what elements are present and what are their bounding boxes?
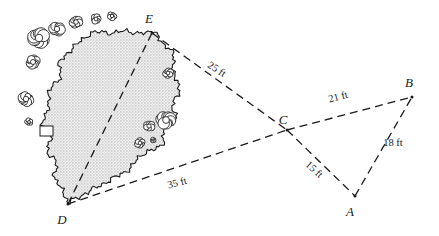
segment-CB <box>287 97 412 130</box>
shrub-lobe <box>166 71 170 75</box>
shrub-small-left <box>25 118 33 125</box>
shrub-cluster-right-large <box>156 112 176 129</box>
shrub-small-right <box>150 137 155 142</box>
shrub-lobe <box>110 14 113 17</box>
shrub-cluster-top-left <box>69 16 83 28</box>
geometry-diagram-pond-triangles: EDCBA 25 ft35 ft21 ft15 ft18 ft <box>0 0 439 236</box>
vertex-label-B: B <box>405 75 413 90</box>
shrub-cluster-upper-left-mid <box>49 22 66 36</box>
shrub-cluster-left-upper <box>26 55 40 69</box>
measurement-label-AB: 18 ft <box>383 137 403 148</box>
dock-rectangle <box>40 126 53 136</box>
shrub-cluster-top-right <box>107 12 116 21</box>
vertex-label-C: C <box>279 112 288 127</box>
shrub-cluster-right-mid <box>144 121 155 131</box>
measurement-label-EC: 25 ft <box>206 59 228 79</box>
shrub-lobe <box>30 59 35 64</box>
vertex-label-D: D <box>56 212 67 227</box>
vertex-marker-D <box>67 203 70 206</box>
shrub-lobe <box>35 34 43 42</box>
shrub-lobe <box>152 139 154 141</box>
vertex-marker-C <box>286 129 289 132</box>
vertex-marker-B <box>411 96 414 99</box>
dock-group <box>40 126 53 136</box>
shrub-lobe <box>94 17 98 21</box>
shrub-lobe <box>28 121 31 124</box>
segment-CA <box>287 130 355 196</box>
measurement-label-CB: 21 ft <box>327 89 349 105</box>
shrub-lobe <box>54 26 59 31</box>
measurement-label-CA: 15 ft <box>303 159 325 180</box>
vertex-marker-E <box>151 32 154 35</box>
shrub-lobe <box>147 124 151 128</box>
vertex-label-A: A <box>345 204 354 219</box>
shrub-cluster-top-center <box>91 14 101 24</box>
vertex-label-E: E <box>144 11 153 26</box>
shrub-lobe <box>138 141 142 145</box>
shrub-lobe <box>23 96 28 101</box>
diagram-canvas: EDCBA 25 ft35 ft21 ft15 ft18 ft <box>0 0 439 236</box>
shrub-cluster-upper-left-large <box>28 28 50 49</box>
shrub-cluster-left-lower <box>18 92 34 107</box>
shrub-lobe <box>74 20 79 25</box>
vertex-marker-A <box>354 195 357 198</box>
measurement-label-DC: 35 ft <box>166 175 188 191</box>
shrub-lobe <box>163 117 170 124</box>
